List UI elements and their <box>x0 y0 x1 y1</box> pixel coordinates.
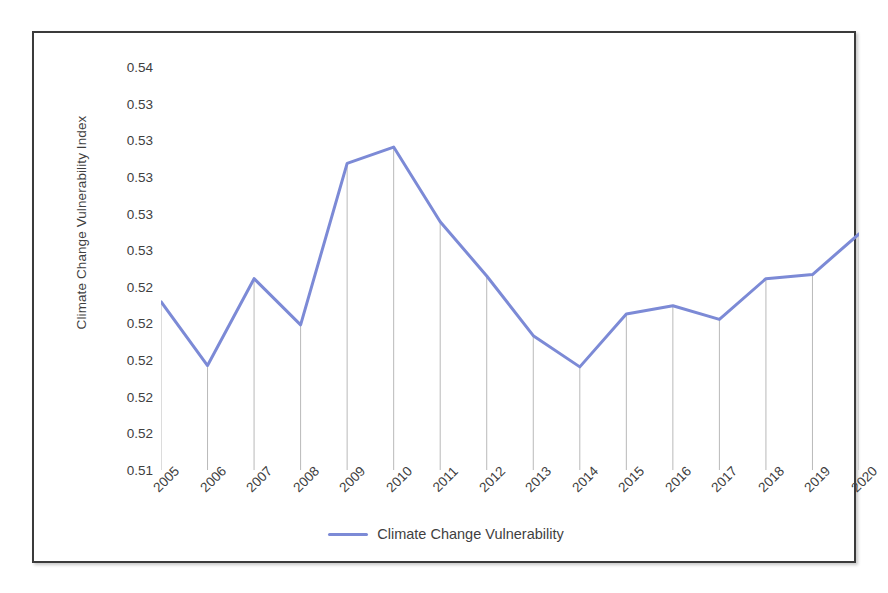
chart-frame: Climate Change Vulnerability Index 0.540… <box>32 31 856 563</box>
series-line-climate-change-vulnerability <box>161 147 859 367</box>
y-axis-tick-label: 0.53 <box>107 133 153 148</box>
y-axis-tick-label: 0.54 <box>107 60 153 75</box>
line-chart-svg <box>161 67 859 470</box>
plot-area <box>161 67 859 470</box>
legend-color-swatch <box>328 533 368 536</box>
y-axis-tick-label: 0.53 <box>107 169 153 184</box>
x-axis-tick-labels: 2005200620072008200920102011201220132014… <box>161 470 859 532</box>
y-axis-tick-label: 0.51 <box>107 463 153 478</box>
y-axis-tick-labels: 0.540.530.530.530.530.530.520.520.520.52… <box>97 67 153 470</box>
y-axis-tick-label: 0.52 <box>107 353 153 368</box>
y-axis-tick-label: 0.53 <box>107 96 153 111</box>
y-axis-tick-label: 0.52 <box>107 279 153 294</box>
y-axis-tick-label: 0.52 <box>107 316 153 331</box>
y-axis-tick-label: 0.53 <box>107 206 153 221</box>
chart-legend: Climate Change Vulnerability <box>34 526 858 542</box>
y-axis-tick-label: 0.52 <box>107 389 153 404</box>
y-axis-tick-label: 0.52 <box>107 426 153 441</box>
y-axis-tick-label: 0.53 <box>107 243 153 258</box>
y-axis-title: Climate Change Vulnerability Index <box>74 58 89 388</box>
droplines-group <box>161 147 859 470</box>
legend-label: Climate Change Vulnerability <box>377 526 563 542</box>
